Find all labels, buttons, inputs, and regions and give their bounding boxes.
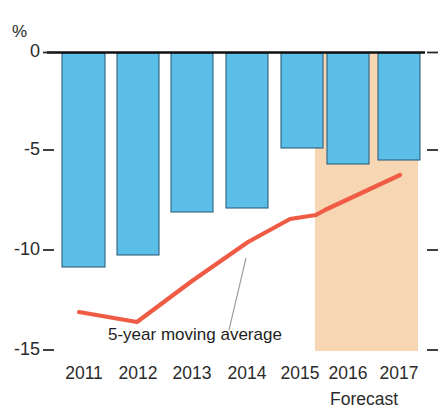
x-tick-label-2013: 2013 [166,363,218,384]
bar-2012 [117,53,159,255]
x-tick-label-2015: 2015 [274,363,326,384]
chart-container: % 0 -5 -10 -15 2011 2012 2013 2014 2015 … [0,0,445,413]
y-axis-ticks-right [427,53,438,351]
y-tick-label-minus10: -10 [0,239,40,260]
bar-2011 [62,53,105,267]
moving-average-annotation: 5-year moving average [108,325,282,345]
forecast-label: Forecast [330,389,398,410]
x-tick-label-2014: 2014 [221,363,273,384]
x-tick-label-2017: 2017 [373,363,425,384]
chart-canvas [0,0,445,413]
y-tick-label-minus5: -5 [0,139,40,160]
bar-2015 [281,53,323,148]
bar-2017 [378,53,420,160]
y-axis-unit-label: % [12,22,27,42]
x-tick-label-2016: 2016 [322,363,374,384]
x-tick-label-2012: 2012 [112,363,164,384]
y-tick-label-0: 0 [0,41,40,62]
callout-leader-line [229,258,246,330]
y-tick-label-minus15: -15 [0,339,40,360]
x-tick-label-2011: 2011 [58,363,110,384]
bar-2013 [171,53,213,212]
y-axis-ticks-left [43,53,54,351]
bar-2014 [226,53,268,208]
bar-2016 [327,53,369,164]
